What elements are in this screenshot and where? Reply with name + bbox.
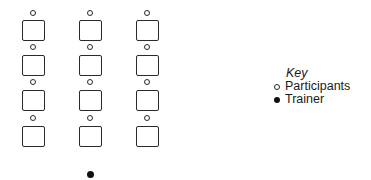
seat — [136, 90, 159, 111]
seat — [79, 90, 102, 111]
seat — [79, 20, 102, 41]
participant-icon — [87, 10, 93, 16]
seat — [79, 126, 102, 147]
participant-icon — [144, 44, 150, 50]
seat — [22, 126, 45, 147]
participant-icon — [30, 79, 36, 85]
seat — [22, 20, 45, 41]
filled-circle-icon — [274, 97, 280, 103]
legend: Key Participants Trainer — [272, 67, 350, 106]
seat — [136, 20, 159, 41]
trainer-icon — [87, 171, 94, 178]
participant-icon — [144, 79, 150, 85]
participant-icon — [30, 115, 36, 121]
participant-icon — [87, 44, 93, 50]
participant-icon — [144, 115, 150, 121]
seat — [22, 55, 45, 76]
participant-icon — [30, 44, 36, 50]
participant-icon — [87, 79, 93, 85]
legend-item-trainer: Trainer — [272, 93, 350, 106]
legend-label: Trainer — [285, 93, 324, 106]
seat — [136, 55, 159, 76]
seat — [79, 55, 102, 76]
participant-icon — [87, 115, 93, 121]
seat — [22, 90, 45, 111]
seat — [136, 126, 159, 147]
participant-icon — [144, 10, 150, 16]
participant-icon — [30, 10, 36, 16]
open-circle-icon — [274, 84, 280, 90]
